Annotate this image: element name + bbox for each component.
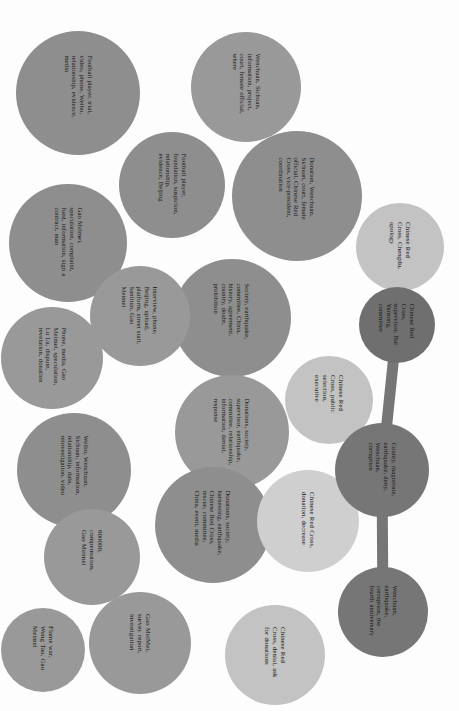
topic-bubble-label: Weibo, Wenchuan, Sichuan, information, r…	[58, 436, 89, 504]
topic-bubble-label: Donations, society, harnessing, earthqua…	[194, 490, 233, 560]
topic-bubble[interactable]: Society, earthquake, committee, China, h…	[173, 259, 291, 377]
topic-bubble-label: Football player, trial, video, phone, We…	[62, 56, 93, 130]
topic-bubble[interactable]: Football player, foundation, suspicion, …	[119, 132, 225, 238]
topic-bubble[interactable]: Wenchuan, earthquake, corruption, the fo…	[338, 567, 428, 657]
topic-bubble[interactable]: Donations, society, harnessing, earthqua…	[155, 467, 271, 583]
topic-bubble-label: Donation, Wenchuan, Sichuan, court, fema…	[278, 157, 317, 235]
topic-bubble[interactable]: Football player, trial, video, phone, We…	[16, 31, 140, 155]
topic-bubble-label: Phone, media, Gao Meimei, speculation, L…	[36, 328, 67, 388]
topic-bubble-label: Flame war, Weng Tao, Gao Meimei	[31, 626, 55, 674]
topic-bubble-label: Chinese Red Cross, Chengdu, apology	[388, 222, 412, 272]
topic-bubble[interactable]: Flame war, Weng Tao, Gao Meimei	[1, 608, 85, 692]
topic-bubble-label: Chinese Red Cross, denial, ask for donat…	[263, 627, 287, 683]
topic-bubble[interactable]: Chinese Red Cross, supervisor, Bai Yanso…	[359, 287, 435, 363]
topic-bubble[interactable]: 600000, compensation, Gao Meimei	[44, 509, 140, 605]
topic-bubble-label: 600000, compensation, Gao Meimei	[80, 530, 104, 584]
bubble-diagram-canvas: Football player, trial, video, phone, We…	[0, 0, 459, 711]
topic-bubble-label: Wenchuan, earthquake, corruption, the fo…	[367, 586, 398, 638]
topic-bubble-label: Chinese Red Cross, supervisor, Bai Yanso…	[378, 303, 417, 347]
topic-bubble[interactable]: Chinese Red Cross, Chengdu, apology	[356, 203, 444, 291]
topic-bubble[interactable]: Phone, media, Gao Meimei, speculation, L…	[1, 307, 103, 409]
topic-bubble-label: Donations, society, supervisor, earthqua…	[213, 398, 252, 466]
topic-bubble-label: Football player, foundation, suspicion, …	[156, 154, 187, 216]
topic-bubble-label: County, magistrate, earthquake, deny, We…	[366, 443, 397, 497]
topic-bubble[interactable]: Chinese Red Cross, denial, ask for donat…	[225, 605, 325, 705]
topic-bubble-label: Gao Meimei, speculation, complaint, fued…	[52, 208, 83, 278]
topic-bubble[interactable]: Interview, phone, Beijing, upload, platf…	[90, 266, 190, 366]
topic-bubble[interactable]: Weibo, Wenchuan, Sichuan, information, r…	[17, 413, 131, 527]
topic-bubble-label: Wenchuan, Sichuan, information, project,…	[230, 54, 261, 120]
topic-bubble[interactable]: Wenchuan, Sichuan, information, project,…	[191, 32, 301, 142]
topic-bubble[interactable]: Donation, Wenchuan, Sichuan, court, fema…	[232, 131, 362, 261]
topic-bubble-label: Society, earthquake, committee, China, h…	[213, 283, 252, 353]
topic-bubble[interactable]: County, magistrate, earthquake, deny, We…	[335, 423, 429, 517]
topic-bubble-label: Interview, phone, Beijing, upload, platf…	[121, 286, 160, 346]
topic-bubble-label: Chinese Red Cross, public selection, exe…	[313, 375, 345, 425]
topic-bubble-label: Chinese Red Cross, donation, decrease	[300, 492, 316, 550]
topic-bubble[interactable]: Gao MeiMei, survey report, investigation	[89, 592, 191, 694]
topic-bubble-label: Gao MeiMei, survey report, investigation	[128, 614, 152, 672]
